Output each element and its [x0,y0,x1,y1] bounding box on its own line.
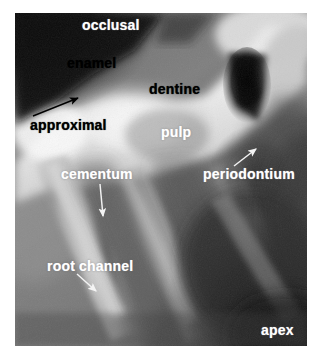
label-root-channel: root channel [47,259,133,273]
dental-radiograph-figure: occlusal enamel dentine approximal pulp … [0,0,317,360]
label-approximal: approximal [30,118,107,132]
label-occlusal: occlusal [82,18,140,32]
label-apex: apex [261,323,294,337]
label-cementum: cementum [61,167,133,181]
label-pulp: pulp [161,125,191,139]
label-dentine: dentine [149,82,200,96]
label-enamel: enamel [67,56,116,70]
label-periodontium: periodontium [203,167,295,181]
